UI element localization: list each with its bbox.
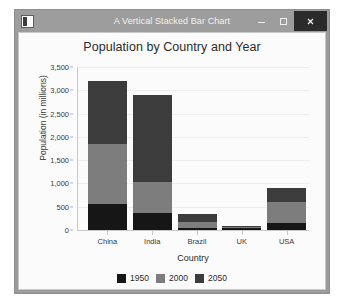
bar-group[interactable] xyxy=(178,214,217,230)
y-axis-tick-label: 1,500 xyxy=(50,156,69,165)
x-axis-tick-mark xyxy=(152,231,153,235)
y-axis-tick-mark xyxy=(70,160,73,161)
x-axis-tick-mark xyxy=(107,231,108,235)
application-icon xyxy=(21,15,34,28)
y-axis-tick-label: 2,000 xyxy=(50,132,69,141)
legend-label: 2050 xyxy=(208,273,227,283)
chart-legend: 195020002050 xyxy=(19,273,325,283)
close-button[interactable] xyxy=(294,11,327,31)
bars-layer xyxy=(77,67,309,231)
minimize-button[interactable] xyxy=(250,11,272,31)
bar-group[interactable] xyxy=(88,81,127,230)
client-area: Population by Country and Year Populatio… xyxy=(18,32,326,290)
chart-body: Population (in millions) 05001,0001,5002… xyxy=(19,61,325,289)
y-axis-ticks: 05001,0001,5002,0002,5003,0003,500 xyxy=(43,67,73,231)
y-axis-tick-mark xyxy=(70,113,73,114)
bar-segment[interactable] xyxy=(88,81,127,144)
bar-segment[interactable] xyxy=(133,95,172,182)
bar-segment[interactable] xyxy=(88,144,127,204)
y-axis-tick-label: 1,000 xyxy=(50,179,69,188)
bar-segment[interactable] xyxy=(178,228,217,231)
legend-swatch xyxy=(117,274,126,283)
plot-area: 05001,0001,5002,0002,5003,0003,500 China… xyxy=(77,67,309,231)
y-axis-tick-label: 0 xyxy=(65,226,69,235)
x-axis-tick-mark xyxy=(287,231,288,235)
title-bar[interactable]: A Vertical Stacked Bar Chart xyxy=(15,10,329,32)
bar-segment[interactable] xyxy=(178,214,217,222)
x-axis-tick-mark xyxy=(197,231,198,235)
legend-label: 1950 xyxy=(130,273,149,283)
bar-segment[interactable] xyxy=(88,204,127,230)
y-axis-tick-mark xyxy=(70,136,73,137)
x-axis-tick-mark xyxy=(242,231,243,235)
y-axis-tick-label: 3,500 xyxy=(50,63,69,72)
y-axis-tick-mark xyxy=(70,67,73,68)
y-axis-tick-mark xyxy=(70,90,73,91)
y-axis-tick-mark xyxy=(70,206,73,207)
legend-item[interactable]: 2050 xyxy=(195,273,227,283)
legend-item[interactable]: 1950 xyxy=(117,273,149,283)
bar-group[interactable] xyxy=(222,226,261,230)
bar-segment[interactable] xyxy=(267,188,306,202)
y-axis-tick-label: 3,000 xyxy=(50,86,69,95)
y-axis-tick-label: 500 xyxy=(56,202,69,211)
window-controls xyxy=(250,10,327,32)
bar-group[interactable] xyxy=(267,188,306,230)
legend-swatch xyxy=(156,274,165,283)
y-axis-tick-mark xyxy=(70,183,73,184)
application-window: A Vertical Stacked Bar Chart Population … xyxy=(14,9,330,294)
y-axis-tick-mark xyxy=(70,230,73,231)
bar-segment[interactable] xyxy=(133,182,172,213)
chart-title: Population by Country and Year xyxy=(19,33,325,54)
legend-item[interactable]: 2000 xyxy=(156,273,188,283)
bar-group[interactable] xyxy=(133,95,172,230)
x-axis-tick-label: USA xyxy=(252,237,322,246)
bar-segment[interactable] xyxy=(133,213,172,231)
minimize-icon xyxy=(256,16,267,27)
maximize-icon xyxy=(278,16,289,27)
bar-segment[interactable] xyxy=(222,228,261,230)
bar-segment[interactable] xyxy=(267,202,306,222)
bar-segment[interactable] xyxy=(267,223,306,230)
legend-label: 2000 xyxy=(169,273,188,283)
x-axis-title: Country xyxy=(77,253,309,263)
legend-swatch xyxy=(195,274,204,283)
close-icon xyxy=(305,16,316,27)
maximize-button[interactable] xyxy=(272,11,294,31)
y-axis-tick-label: 2,500 xyxy=(50,109,69,118)
